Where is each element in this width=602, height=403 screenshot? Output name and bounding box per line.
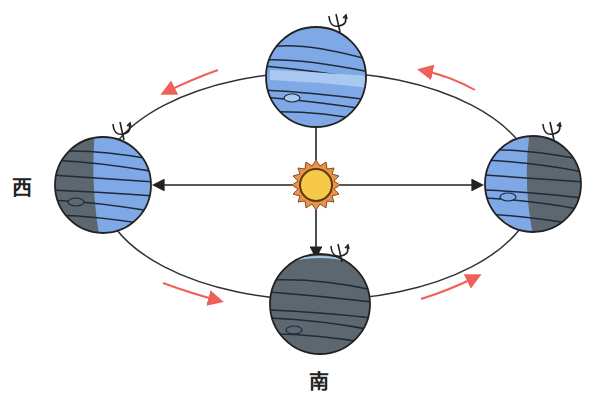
sun-icon <box>292 160 340 210</box>
planet-top <box>260 14 380 140</box>
planet-right <box>480 122 590 240</box>
planet-left <box>50 122 160 240</box>
label-west: 西 <box>12 172 32 201</box>
spin-axis-icon <box>113 122 131 140</box>
planet-bottom <box>265 244 380 360</box>
label-south: 南 <box>309 366 329 395</box>
orbit-diagram <box>0 0 602 403</box>
